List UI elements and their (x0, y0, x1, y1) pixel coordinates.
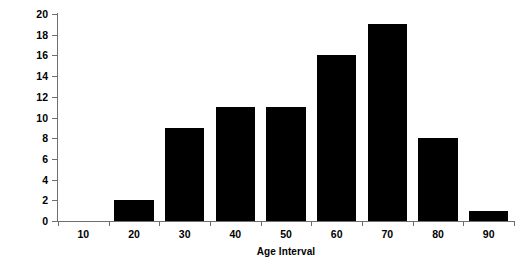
y-tick-label: 4 (6, 175, 48, 186)
x-tick-mark (159, 221, 160, 226)
x-tick-mark (413, 221, 414, 226)
bar (266, 107, 306, 221)
y-tick-label: 2 (6, 195, 48, 206)
y-tick-label: 18 (6, 30, 48, 41)
bar (216, 107, 256, 221)
x-tick-mark (109, 221, 110, 226)
y-tick-label: 14 (6, 71, 48, 82)
x-tick-mark (362, 221, 363, 226)
x-tick-mark (261, 221, 262, 226)
y-tick-label-wrapper: 10 (0, 113, 48, 124)
y-tick-label-wrapper: 0 (0, 216, 48, 227)
y-tick-label-wrapper: 6 (0, 154, 48, 165)
y-tick-label: 20 (6, 9, 48, 20)
bar (469, 211, 509, 221)
y-tick-label: 6 (6, 154, 48, 165)
y-tick-label: 8 (6, 133, 48, 144)
y-tick-label-wrapper: 20 (0, 9, 48, 20)
y-tick-label: 0 (6, 216, 48, 227)
x-tick-mark (514, 221, 515, 226)
bars-layer (58, 14, 514, 221)
y-tick-label-wrapper: 12 (0, 92, 48, 103)
y-tick-label-wrapper: 4 (0, 175, 48, 186)
y-tick-label-wrapper: 18 (0, 30, 48, 41)
y-tick-label: 10 (6, 113, 48, 124)
y-tick-label-wrapper: 16 (0, 50, 48, 61)
x-tick-mark (210, 221, 211, 226)
x-axis-line (57, 221, 515, 222)
bar (368, 24, 408, 221)
y-tick-label-wrapper: 14 (0, 71, 48, 82)
x-tick-mark (311, 221, 312, 226)
x-axis-title: Age Interval (58, 246, 514, 257)
y-tick-label-wrapper: 8 (0, 133, 48, 144)
bar (418, 138, 458, 221)
y-tick-label: 16 (6, 50, 48, 61)
bar-chart: Number of Patients 20181614121086420 102… (0, 0, 527, 270)
bar (165, 128, 205, 221)
x-tick-mark (463, 221, 464, 226)
y-tick-label-wrapper: 2 (0, 195, 48, 206)
y-tick-label: 12 (6, 92, 48, 103)
x-tick-mark (58, 221, 59, 226)
x-tick-label: 90 (459, 228, 519, 240)
bar (317, 55, 357, 221)
bar (114, 200, 154, 221)
